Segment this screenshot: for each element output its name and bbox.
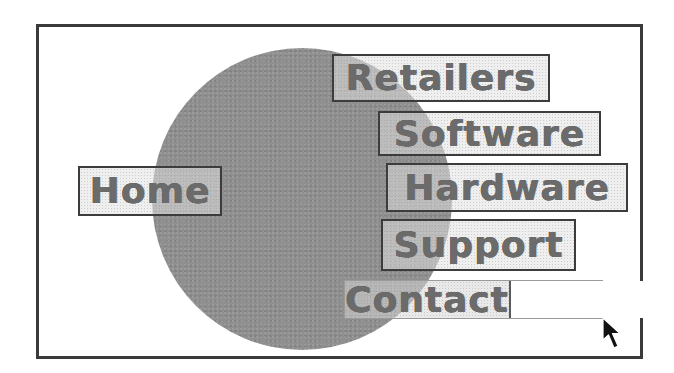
contact-input-field[interactable]	[511, 281, 674, 318]
menu-item-label: Retailers	[346, 60, 537, 96]
contact-row: Contact	[344, 280, 603, 319]
menu-item-label: Home	[90, 173, 211, 209]
menu-item-home[interactable]: Home	[78, 166, 222, 216]
menu-item-contact[interactable]: Contact	[345, 281, 511, 318]
menu-item-label: Support	[394, 227, 564, 263]
menu-item-hardware[interactable]: Hardware	[386, 163, 628, 212]
menu-item-label: Software	[394, 116, 585, 152]
menu-item-support[interactable]: Support	[381, 219, 576, 271]
menu-item-software[interactable]: Software	[378, 111, 601, 156]
menu-item-retailers[interactable]: Retailers	[332, 54, 550, 102]
menu-item-label: Contact	[345, 282, 509, 318]
menu-item-label: Hardware	[404, 170, 610, 206]
